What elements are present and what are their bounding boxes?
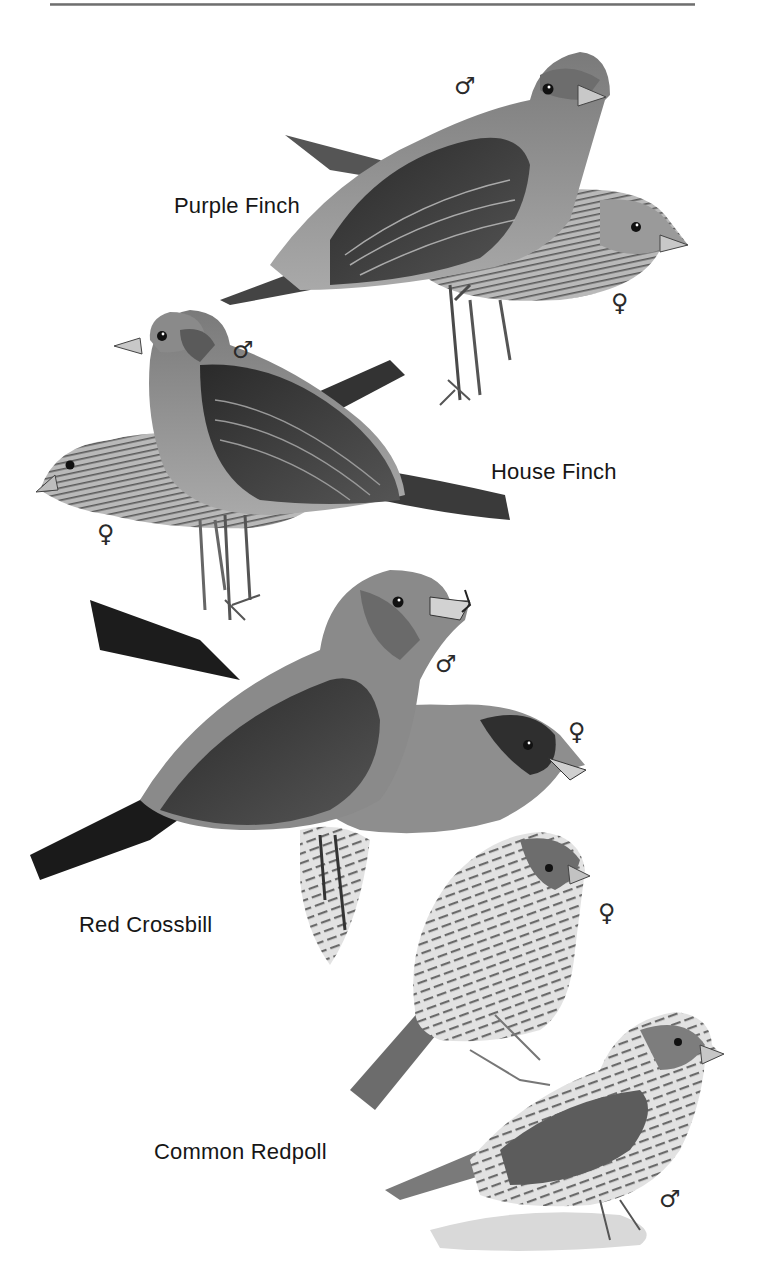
house-finch-male [114,310,510,620]
purple-finch-male [220,52,610,405]
male-symbol-icon: ♂ [454,74,476,98]
label-purple-finch: Purple Finch [174,193,300,219]
female-symbol-icon: ♀ [598,901,616,925]
male-symbol-icon: ♂ [232,338,254,362]
female-symbol-icon: ♀ [97,522,115,546]
male-symbol-icon: ♂ [659,1187,681,1211]
male-symbol-icon: ♂ [435,652,457,676]
red-crossbill-male [30,570,470,930]
bird-illustrations [0,0,765,1287]
label-red-crossbill: Red Crossbill [79,912,212,938]
label-common-redpoll: Common Redpoll [154,1139,327,1165]
female-symbol-icon: ♀ [568,720,586,744]
common-redpoll-male [385,1012,724,1251]
female-symbol-icon: ♀ [611,291,629,315]
common-redpoll-female [350,832,590,1110]
label-house-finch: House Finch [491,459,617,485]
